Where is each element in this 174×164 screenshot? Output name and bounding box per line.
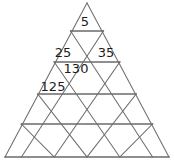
left-diag-4	[120, 124, 153, 157]
right-diag-4	[21, 124, 54, 157]
outer-edge-right	[87, 3, 169, 157]
left-diagonal-lines	[5, 3, 153, 157]
cell-label-25-top: 25	[55, 46, 72, 59]
row-divider-lines	[5, 31, 169, 157]
cell-label-5: 5	[81, 15, 89, 28]
cell-label-130: 130	[64, 62, 89, 75]
triangle-figure: 5 25 35 130 125	[0, 0, 174, 164]
cell-label-35: 35	[98, 46, 115, 59]
cell-label-125: 125	[41, 80, 66, 93]
